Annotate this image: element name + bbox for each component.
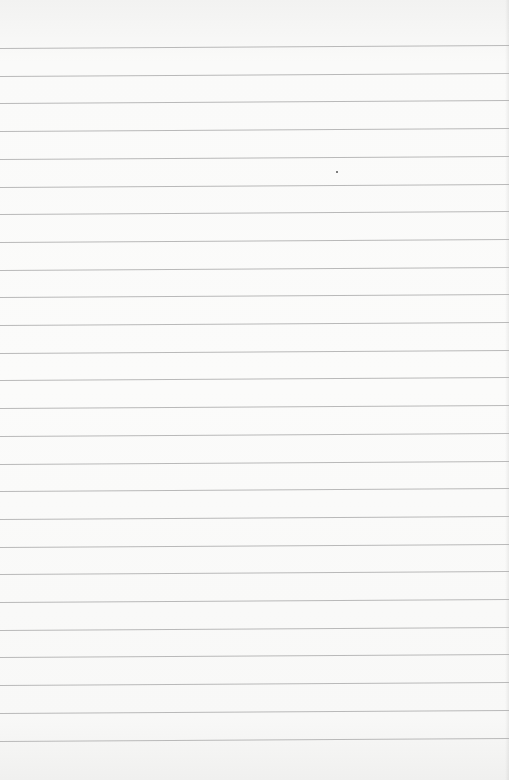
ruled-line [0, 156, 509, 160]
paper-speck [336, 171, 338, 173]
ruled-line [0, 405, 509, 409]
ruled-paper-sheet [0, 0, 509, 780]
ruled-line [0, 516, 509, 520]
ruled-line [0, 100, 509, 104]
ruled-line [0, 128, 509, 132]
ruled-line [0, 239, 509, 243]
ruled-line [0, 682, 509, 686]
ruled-line [0, 377, 509, 381]
ruled-line [0, 627, 509, 631]
ruled-line [0, 183, 509, 187]
ruled-line [0, 45, 509, 49]
ruled-line [0, 599, 509, 603]
ruled-line [0, 211, 509, 215]
ruled-line [0, 654, 509, 658]
ruled-line [0, 350, 509, 354]
ruled-line [0, 460, 509, 464]
ruled-line [0, 266, 509, 270]
ruled-line [0, 488, 509, 492]
ruled-line [0, 294, 509, 298]
ruled-line [0, 322, 509, 326]
ruled-line [0, 571, 509, 575]
ruled-line [0, 433, 509, 437]
ruled-line [0, 737, 509, 741]
ruled-line [0, 543, 509, 547]
ruled-line [0, 73, 509, 77]
ruled-line [0, 710, 509, 714]
paper-edge-shadow [505, 0, 509, 780]
